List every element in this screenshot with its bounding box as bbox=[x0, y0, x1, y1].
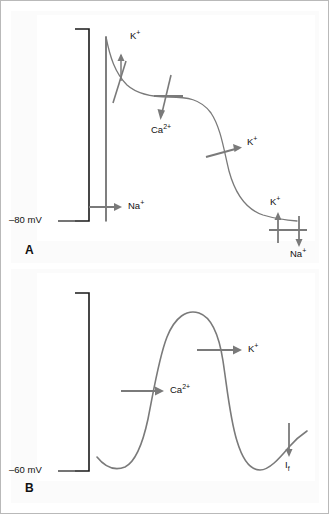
panel-b-scale-bracket bbox=[75, 293, 89, 471]
panel-a-graphics bbox=[11, 11, 319, 263]
panel-a-na-label-2: Na+ bbox=[290, 249, 306, 259]
panel-a-k-label-3: K+ bbox=[270, 197, 280, 207]
panel-a-scale-label: –80 mV bbox=[9, 215, 42, 225]
panel-b-ca-label: Ca2+ bbox=[170, 385, 190, 395]
panel-b-if-arrow bbox=[286, 423, 293, 457]
panel-a: –80 mV K+ Ca2+ K+ Na+ K+ Na+ A bbox=[11, 11, 319, 263]
panel-a-k-label-2: K+ bbox=[247, 137, 257, 147]
panel-a-trace bbox=[106, 37, 297, 221]
panel-b-letter: B bbox=[25, 481, 34, 495]
panel-b-graphics bbox=[11, 269, 319, 503]
panel-b-ca-arrow bbox=[121, 387, 164, 396]
figure-container: –80 mV K+ Ca2+ K+ Na+ K+ Na+ A bbox=[0, 0, 329, 514]
panel-a-ca-label: Ca2+ bbox=[151, 125, 171, 135]
panel-a-scale-bracket bbox=[75, 29, 89, 221]
panel-b-if-label: If bbox=[285, 460, 290, 470]
panel-a-k-label-1: K+ bbox=[130, 31, 140, 41]
panel-a-letter: A bbox=[25, 243, 34, 257]
panel-a-na-label-1: Na+ bbox=[128, 201, 144, 211]
panel-a-pump-arrows bbox=[269, 212, 307, 247]
panel-b-k-label: K+ bbox=[248, 344, 258, 354]
panel-b: –60 mV K+ Ca2+ If B bbox=[11, 269, 319, 503]
panel-b-scale-label: –60 mV bbox=[9, 465, 42, 475]
panel-a-k-arrow-1 bbox=[113, 54, 126, 104]
